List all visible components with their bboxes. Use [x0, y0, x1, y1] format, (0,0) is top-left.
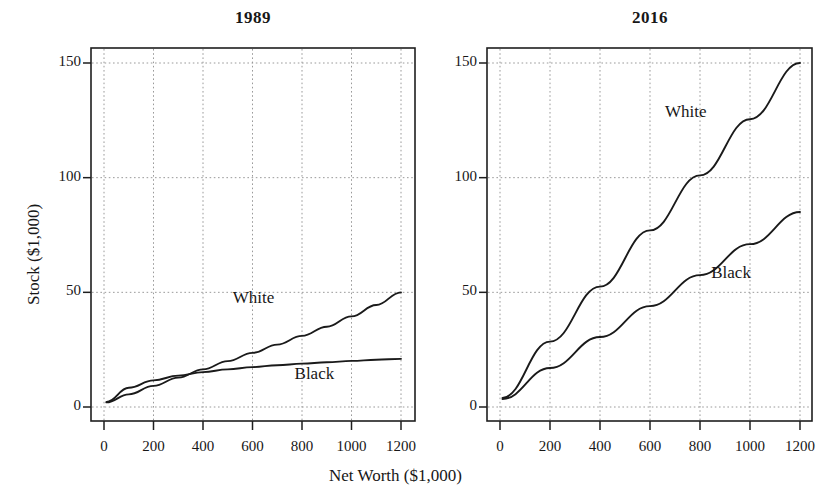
chart-figure: 1989 2016 Stock ($1,000) Net Worth ($1,0… — [0, 0, 826, 498]
y-tick-label: 150 — [425, 53, 477, 70]
series-label-black: Black — [295, 364, 335, 384]
x-tick-label: 1000 — [735, 438, 765, 455]
x-tick-label: 600 — [241, 438, 264, 455]
x-tick-label: 600 — [639, 438, 662, 455]
y-tick-label: 100 — [29, 168, 81, 185]
series-line-white — [106, 292, 401, 402]
y-tick-label: 150 — [29, 53, 81, 70]
y-tick-label: 100 — [425, 168, 477, 185]
plot-area-2016 — [440, 0, 826, 450]
x-tick-label: 1200 — [386, 438, 416, 455]
x-tick-label: 200 — [142, 438, 165, 455]
x-tick-label: 400 — [589, 438, 612, 455]
x-tick-label: 200 — [539, 438, 562, 455]
y-tick-label: 0 — [29, 397, 81, 414]
y-tick-label: 50 — [425, 282, 477, 299]
x-tick-label: 800 — [291, 438, 314, 455]
series-line-black — [106, 359, 401, 402]
series-line-white — [503, 63, 801, 398]
series-line-black — [503, 212, 801, 399]
x-tick-label: 1000 — [337, 438, 367, 455]
x-tick-label: 1200 — [785, 438, 815, 455]
x-tick-label: 0 — [496, 438, 504, 455]
x-tick-label: 0 — [100, 438, 108, 455]
x-tick-label: 400 — [192, 438, 215, 455]
x-tick-label: 800 — [689, 438, 712, 455]
y-tick-label: 0 — [425, 397, 477, 414]
y-tick-label: 50 — [29, 282, 81, 299]
series-label-black: Black — [711, 263, 751, 283]
series-label-white: White — [665, 102, 707, 122]
x-axis-label: Net Worth ($1,000) — [329, 466, 462, 486]
series-label-white: White — [233, 288, 275, 308]
